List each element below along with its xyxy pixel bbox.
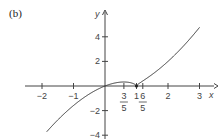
panel-label: (b) xyxy=(9,7,22,20)
fraction-numerator: 3 xyxy=(121,91,126,101)
y-tick-label: 4 xyxy=(95,32,100,42)
function-curve xyxy=(47,27,200,131)
x-tick-label: −1 xyxy=(68,91,78,101)
fraction-numerator: 6 xyxy=(140,91,145,101)
fraction-denominator: 5 xyxy=(140,103,145,113)
x-tick-label: 1 xyxy=(134,91,139,101)
critical-point-markers xyxy=(135,84,138,87)
x-tick-label: 3 xyxy=(197,91,202,101)
x-axis-arrow-icon xyxy=(214,84,218,89)
x-tick-label: −2 xyxy=(37,91,47,101)
x-tick-label: 2 xyxy=(165,91,170,101)
y-tick-label: −4 xyxy=(90,130,100,139)
function-plot: (b) xy −2−1123356542−2−4 xyxy=(0,0,220,139)
y-axis-label: y xyxy=(94,9,100,19)
axes: xy xyxy=(25,9,218,139)
x-axis-label: x xyxy=(208,90,214,100)
y-tick-label: 2 xyxy=(95,56,100,66)
ticks: −2−1123356542−2−4 xyxy=(37,32,202,139)
y-tick-label: −2 xyxy=(90,106,100,116)
cusp-point xyxy=(135,84,138,87)
fraction-denominator: 5 xyxy=(121,103,126,113)
